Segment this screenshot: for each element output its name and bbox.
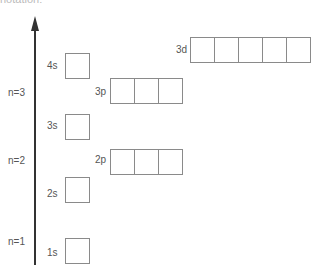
shell-label-n3: n=3 (8, 88, 25, 98)
shell-label-n2: n=2 (8, 156, 25, 166)
orbital-2p (110, 149, 183, 175)
orbital-1s (65, 238, 90, 264)
orbital-box (65, 114, 90, 140)
orbital-3s (65, 114, 90, 140)
orbital-box (262, 37, 287, 63)
orbital-4s (65, 53, 90, 79)
orbital-box (110, 149, 135, 175)
orbital-label-3p: 3p (95, 87, 106, 97)
orbital-box (65, 177, 90, 203)
orbital-3d (190, 37, 311, 63)
orbital-label-3s: 3s (47, 121, 58, 131)
orbital-box (158, 78, 183, 104)
orbital-label-2p: 2p (95, 155, 106, 165)
orbital-box (65, 238, 90, 264)
orbital-3p (110, 78, 183, 104)
shell-label-n1: n=1 (8, 237, 25, 247)
orbital-label-1s: 1s (47, 248, 58, 258)
orbital-box (190, 37, 215, 63)
orbital-box (238, 37, 263, 63)
orbital-box (158, 149, 183, 175)
orbital-box (110, 78, 135, 104)
orbital-box (214, 37, 239, 63)
orbital-2s (65, 177, 90, 203)
orbital-box (134, 78, 159, 104)
orbital-box (134, 149, 159, 175)
orbital-label-3d: 3d (176, 45, 187, 55)
orbital-box (65, 53, 90, 79)
orbital-box (286, 37, 311, 63)
orbital-label-2s: 2s (47, 189, 58, 199)
orbital-label-4s: 4s (47, 61, 58, 71)
